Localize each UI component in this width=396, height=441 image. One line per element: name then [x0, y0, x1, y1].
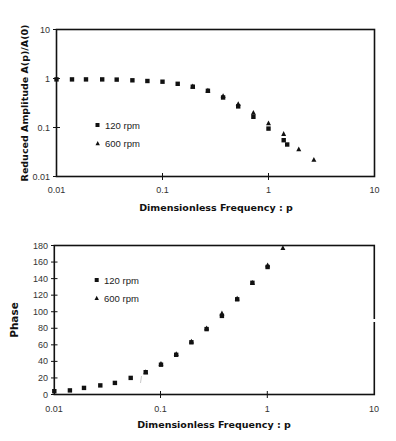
- triangle-marker-icon: [296, 146, 301, 151]
- amplitude-y-axis-title: Reduced Amplitude A(p)/A(0): [19, 25, 30, 182]
- x-tick-label: 0.01: [45, 404, 63, 414]
- phase-y-axis-title: Phase: [8, 302, 20, 338]
- y-tick-label: 140: [33, 274, 48, 284]
- square-marker-icon: [70, 77, 74, 81]
- scan-artifact: [141, 376, 142, 383]
- x-tick-label: 0.1: [156, 185, 169, 195]
- phase-legend: 120 rpm 600 rpm: [95, 275, 139, 305]
- phase-x-tick-labels: 0.01 0.1 1 10: [45, 404, 379, 414]
- square-marker-icon: [113, 381, 117, 385]
- legend-triangle-marker-icon: [95, 296, 99, 300]
- triangle-marker-icon: [266, 120, 271, 125]
- amplitude-legend: 120 rpm 600 rpm: [96, 120, 140, 150]
- legend-label-120rpm: 120 rpm: [105, 120, 140, 131]
- square-marker-icon: [251, 115, 255, 119]
- triangle-marker-icon: [281, 131, 286, 136]
- x-tick-label: 0.01: [48, 185, 66, 195]
- triangle-marker-icon: [311, 157, 316, 162]
- triangle-marker-icon: [251, 110, 256, 115]
- y-tick-label: 180: [33, 241, 48, 251]
- x-tick-label: 1: [265, 404, 270, 414]
- square-marker-icon: [282, 138, 286, 142]
- x-tick-label: 1: [266, 185, 271, 195]
- square-marker-icon: [115, 77, 119, 81]
- y-tick-label: 120: [33, 290, 48, 300]
- x-tick-label: 0.1: [154, 404, 167, 414]
- scan-artifact: [373, 319, 376, 322]
- y-tick-label: 80: [38, 323, 48, 333]
- amplitude-x-tick-labels: 0.01 0.1 1 10: [48, 185, 380, 195]
- legend-square-marker-icon: [95, 278, 99, 282]
- y-tick-label: 40: [38, 356, 48, 366]
- amplitude-x-axis-title: Dimensionless Frequency : p: [139, 202, 293, 213]
- square-marker-icon: [82, 386, 86, 390]
- triangle-marker-icon: [219, 311, 224, 316]
- y-tick-label: 0.1: [37, 123, 50, 133]
- square-marker-icon: [54, 77, 58, 81]
- y-tick-label: 60: [38, 340, 48, 350]
- y-tick-label: 160: [33, 257, 48, 267]
- square-marker-icon: [160, 80, 164, 84]
- square-marker-icon: [285, 142, 289, 146]
- square-marker-icon: [52, 389, 56, 393]
- phase-chart: 180 160 140 120 100 80 60 40 20 0 0.01 0…: [0, 225, 396, 441]
- phase-y-tick-labels: 180 160 140 120 100 80 60 40 20 0: [33, 241, 48, 400]
- phase-x-axis-title: Dimensionless Frequency : p: [137, 419, 291, 430]
- legend-label-600rpm: 600 rpm: [105, 138, 140, 149]
- square-marker-icon: [130, 78, 134, 82]
- y-tick-label: 100: [33, 307, 48, 317]
- y-tick-label: 0.01: [32, 172, 50, 182]
- legend-label-600rpm: 600 rpm: [104, 293, 139, 304]
- y-tick-label: 20: [38, 373, 48, 383]
- phase-plot-frame: [54, 246, 374, 395]
- y-tick-label: 1: [45, 74, 50, 84]
- amplitude-y-tick-labels: 10 1 0.1 0.01: [32, 25, 50, 182]
- x-tick-label: 10: [369, 185, 379, 195]
- y-tick-label: 0: [43, 390, 48, 400]
- square-marker-icon: [84, 77, 88, 81]
- phase-data-points: [52, 245, 285, 393]
- legend-label-120rpm: 120 rpm: [104, 275, 139, 286]
- square-marker-icon: [68, 388, 72, 392]
- amplitude-data-points: [54, 77, 316, 162]
- square-marker-icon: [176, 82, 180, 86]
- y-tick-label: 10: [40, 25, 50, 35]
- legend-triangle-marker-icon: [96, 141, 100, 145]
- legend-square-marker-icon: [96, 123, 100, 127]
- amplitude-plot-frame: [57, 30, 375, 177]
- x-tick-label: 10: [369, 404, 379, 414]
- square-marker-icon: [145, 79, 149, 83]
- square-marker-icon: [100, 77, 104, 81]
- square-marker-icon: [129, 376, 133, 380]
- triangle-marker-icon: [236, 101, 241, 106]
- square-marker-icon: [98, 383, 102, 387]
- square-marker-icon: [266, 126, 270, 130]
- amplitude-chart: 10 1 0.1 0.01 0.01 0.1 1 10 Dimensionles…: [0, 0, 396, 225]
- phase-chart-svg: 180 160 140 120 100 80 60 40 20 0 0.01 0…: [0, 225, 396, 441]
- amplitude-chart-svg: 10 1 0.1 0.01 0.01 0.1 1 10 Dimensionles…: [0, 0, 396, 225]
